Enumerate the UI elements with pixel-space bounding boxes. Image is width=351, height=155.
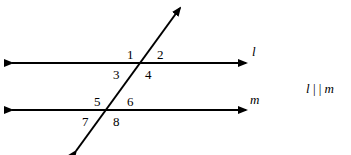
parallel-statement: l | | m — [306, 82, 334, 95]
transversal — [76, 8, 180, 151]
angle-5-label: 5 — [94, 95, 101, 108]
line-m-label: m — [250, 93, 259, 106]
statement-left: l — [306, 81, 310, 96]
angle-7-label: 7 — [82, 115, 89, 128]
angle-1-label: 1 — [127, 48, 134, 61]
diagram-canvas — [0, 0, 351, 155]
angle-3-label: 3 — [113, 68, 120, 81]
angle-8-label: 8 — [113, 115, 120, 128]
line-l-label: l — [252, 45, 256, 58]
statement-right: m — [325, 81, 334, 96]
parallel-symbol: | | — [313, 81, 321, 96]
angle-6-label: 6 — [127, 95, 134, 108]
angle-2-label: 2 — [157, 48, 164, 61]
angle-4-label: 4 — [145, 68, 152, 81]
